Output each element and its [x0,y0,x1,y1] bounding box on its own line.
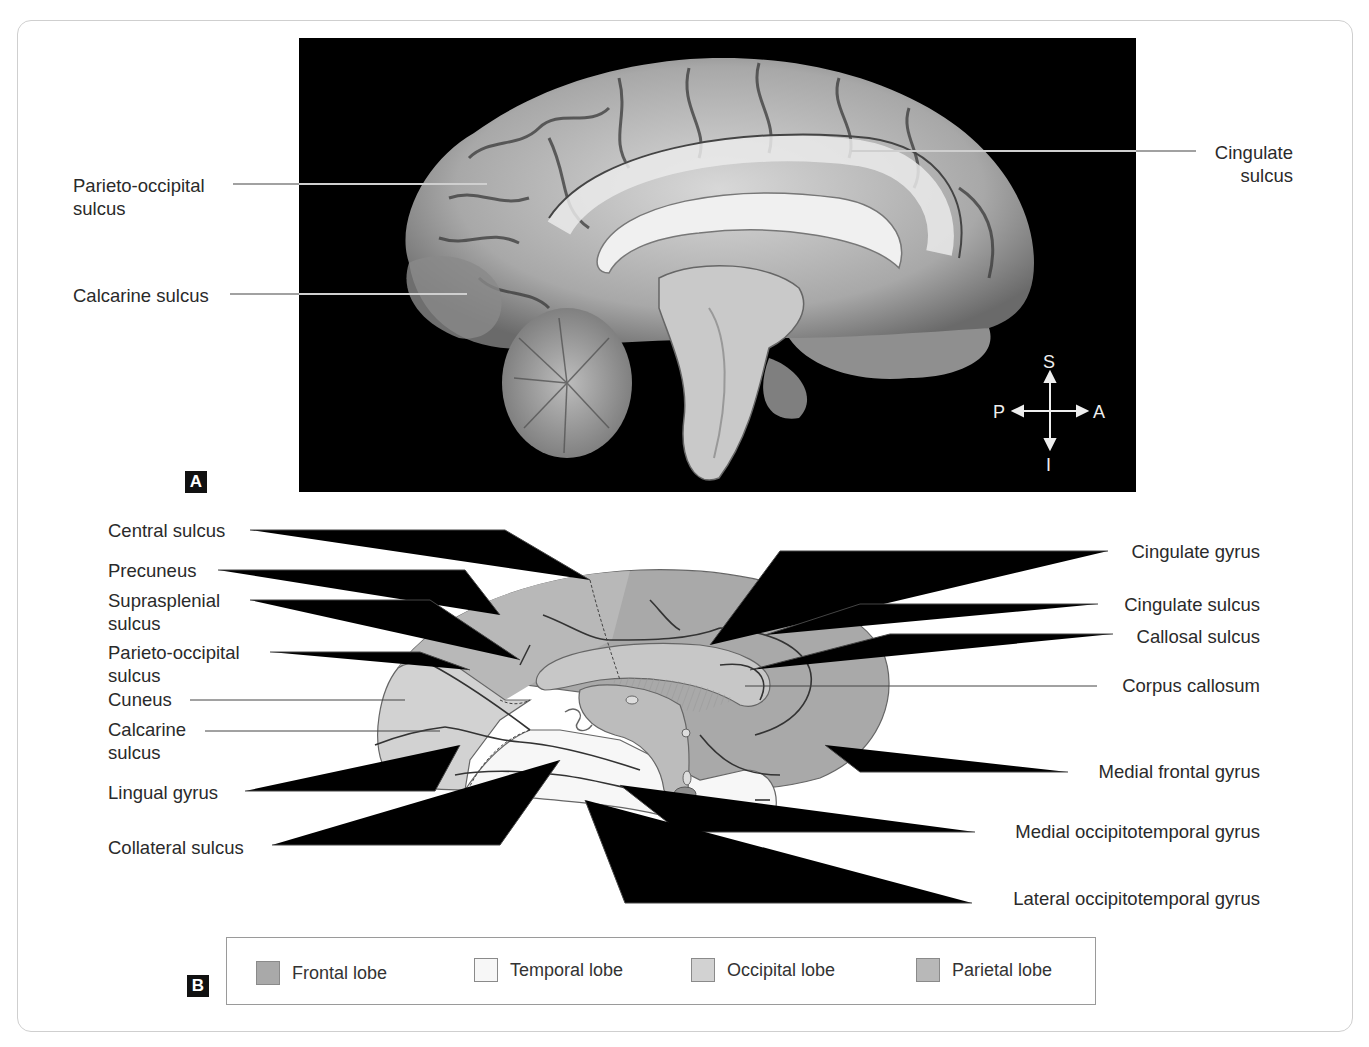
legend-label-temporal: Temporal lobe [510,960,623,981]
lobe-legend: Frontal lobe Temporal lobe Occipital lob… [226,937,1096,1005]
legend-item-occipital: Occipital lobe [691,958,835,982]
label-calcarine-sulcus: Calcarine sulcus [108,718,186,764]
label-collateral-sulcus: Collateral sulcus [108,836,244,859]
label-central-sulcus: Central sulcus [108,519,225,542]
label-medial-occipitotemporal-gyrus: Medial occipitotemporal gyrus [960,820,1260,843]
label-cingulate-gyrus: Cingulate gyrus [1060,540,1260,563]
swatch-temporal-icon [474,958,498,982]
label-medial-frontal-gyrus: Medial frontal gyrus [1040,760,1260,783]
swatch-occipital-icon [691,958,715,982]
label-suprasplenial-sulcus: Suprasplenial sulcus [108,589,220,635]
label-parieto-occipital-sulcus: Parieto-occipital sulcus [108,641,240,687]
legend-label-frontal: Frontal lobe [292,963,387,984]
legend-item-parietal: Parietal lobe [916,958,1052,982]
label-cuneus: Cuneus [108,688,172,711]
legend-label-parietal: Parietal lobe [952,960,1052,981]
legend-label-occipital: Occipital lobe [727,960,835,981]
label-corpus-callosum: Corpus callosum [1040,674,1260,697]
panel-tag-b: B [187,975,209,997]
label-lingual-gyrus: Lingual gyrus [108,781,218,804]
label-lateral-occipitotemporal-gyrus: Lateral occipitotemporal gyrus [960,887,1260,910]
swatch-parietal-icon [916,958,940,982]
swatch-frontal-icon [256,961,280,985]
label-precuneus: Precuneus [108,559,196,582]
label-callosal-sulcus: Callosal sulcus [1060,625,1260,648]
legend-item-frontal: Frontal lobe [256,961,387,985]
legend-item-temporal: Temporal lobe [474,958,623,982]
label-cingulate-sulcus: Cingulate sulcus [1060,593,1260,616]
